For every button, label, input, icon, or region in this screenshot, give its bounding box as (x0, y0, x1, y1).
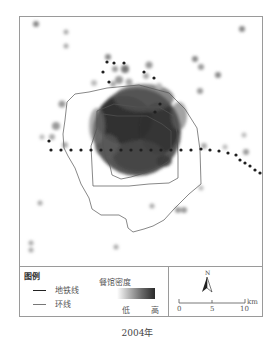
density-gradient-bar (117, 288, 155, 299)
density-blobs (29, 21, 250, 253)
map-caption: 2004年 (0, 326, 275, 339)
scale-tick-10: 10 (240, 305, 249, 313)
scale-bar (177, 297, 249, 305)
north-label: N (205, 269, 210, 276)
subway-line-symbol (33, 290, 46, 291)
legend-panel: 图例 地铁线 环线 餐馆密度 低 高 N 0 5 10 km (19, 266, 263, 317)
density-map (19, 16, 263, 266)
legend-title: 图例 (24, 270, 40, 281)
scale-unit: km (247, 298, 258, 306)
scale-tick-0: 0 (177, 305, 181, 313)
scale-tick-5: 5 (210, 305, 214, 313)
north-arrow-icon (201, 277, 213, 293)
density-high-label: 高 (151, 304, 159, 315)
ring-road-symbol (33, 304, 46, 305)
subway-line-label: 地铁线 (55, 284, 79, 295)
density-low-label: 低 (122, 304, 130, 315)
density-legend-title: 餐馆密度 (99, 276, 131, 287)
ring-road-label: 环线 (55, 298, 71, 309)
scale-north-panel: N 0 5 10 km (169, 267, 263, 317)
